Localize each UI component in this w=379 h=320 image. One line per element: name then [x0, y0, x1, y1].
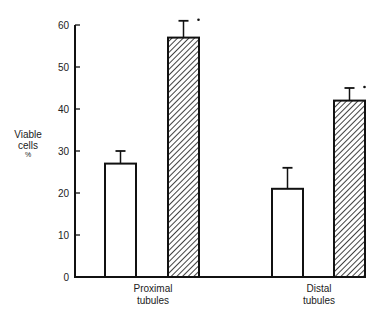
x-category-proximal: Proximal tubules: [113, 283, 193, 307]
plot-area: 0102030405060: [0, 0, 379, 320]
y-tick-label: 60: [58, 20, 70, 31]
x-category-distal-line1: Distal: [279, 283, 359, 295]
y-axis-label: Viable cells %: [8, 129, 48, 159]
bar-rect: [272, 189, 303, 277]
y-tick-label: 20: [58, 188, 70, 199]
x-category-distal-line2: tubules: [279, 295, 359, 307]
y-axis-label-unit: %: [8, 151, 48, 159]
bar-open-0: [105, 151, 136, 277]
significance-marker: [197, 19, 200, 22]
y-tick-label: 40: [58, 104, 70, 115]
bar-hatched-0: [168, 19, 200, 278]
y-tick-label: 50: [58, 62, 70, 73]
y-tick-label: 30: [58, 146, 70, 157]
bar-rect: [105, 164, 136, 277]
y-axis-label-line2: cells: [8, 140, 48, 151]
bars: [105, 19, 366, 278]
x-category-distal: Distal tubules: [279, 283, 359, 307]
bar-rect: [334, 101, 365, 277]
x-category-proximal-line1: Proximal: [113, 283, 193, 295]
bar-hatched-1: [334, 86, 366, 277]
bar-rect: [168, 38, 199, 277]
significance-marker: [363, 86, 366, 89]
x-category-proximal-line2: tubules: [113, 295, 193, 307]
y-axis-label-line1: Viable: [8, 129, 48, 140]
bar-open-1: [272, 168, 303, 277]
y-tick-label: 10: [58, 230, 70, 241]
y-tick-label: 0: [63, 272, 69, 283]
bar-chart: 0102030405060 Viable cells % Proximal tu…: [0, 0, 379, 320]
